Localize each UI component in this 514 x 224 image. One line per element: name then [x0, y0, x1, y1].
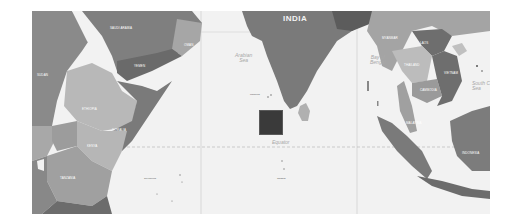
- label-indonesia: Indonesia: [462, 151, 479, 155]
- chagos: [281, 160, 282, 161]
- oman: [172, 19, 202, 56]
- label-arabian-sea: Arabian Sea: [235, 53, 252, 63]
- spratly-islands: [476, 65, 478, 67]
- sri-lanka: [298, 103, 310, 121]
- label-yemen: Yemen: [134, 64, 145, 68]
- label-kenya: Kenya: [87, 144, 97, 148]
- label-equator: Equator: [272, 140, 290, 145]
- label-ethiopia: Ethiopia: [82, 107, 97, 111]
- label-south-china-sea: South C Sea: [472, 81, 490, 91]
- map: INDIA Arabian Sea Bay of Bengal Equator …: [32, 11, 490, 214]
- label-sudan: Sudan: [37, 73, 48, 77]
- label-india: INDIA: [283, 14, 307, 23]
- borneo: [450, 106, 490, 171]
- label-chagos: Chagos: [277, 177, 286, 180]
- label-malaysia: Malaysia: [406, 121, 422, 125]
- label-thailand: Thailand: [404, 63, 420, 67]
- label-cambodia: Cambodia: [420, 88, 437, 92]
- label-myanmar: Myanmar: [382, 36, 398, 40]
- label-oman: Oman: [184, 43, 193, 47]
- label-maldives: Maldives: [250, 93, 260, 96]
- label-tanzania: Tanzania: [60, 176, 75, 180]
- highlight-marker: [259, 110, 283, 135]
- label-bay-of-bengal: Bay of Bengal: [370, 55, 386, 65]
- andaman-islands: [367, 81, 369, 91]
- label-saudi-arabia: Saudi Arabia: [110, 26, 132, 30]
- hainan: [452, 43, 467, 56]
- label-seychelles: Seychelles: [144, 177, 156, 180]
- label-vietnam: Vietnam: [444, 71, 458, 75]
- label-somalia: Somalia: [112, 128, 126, 132]
- sumatra: [377, 116, 432, 179]
- label-laos: Laos: [420, 41, 428, 45]
- lakshadweep: [270, 94, 272, 96]
- java: [417, 176, 490, 199]
- uganda: [52, 121, 77, 151]
- seychelles: [179, 174, 180, 175]
